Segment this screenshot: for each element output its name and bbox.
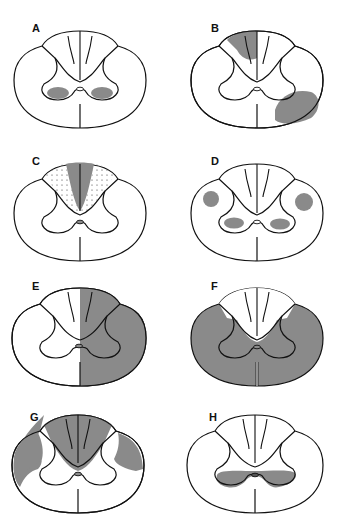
spinal-cord-section	[0, 266, 171, 399]
spinal-cord-section	[0, 399, 171, 532]
panel-f: F	[171, 266, 342, 399]
panel-e: E	[0, 266, 171, 399]
spinal-cord-section	[171, 266, 342, 399]
panel-g: G	[0, 399, 171, 532]
panel-d: D	[171, 133, 342, 266]
spinal-cord-section	[171, 0, 342, 133]
panel-b: B	[171, 0, 342, 133]
spinal-cord-section	[0, 0, 171, 133]
spinal-cord-section	[171, 133, 342, 266]
spinal-cord-section	[0, 133, 171, 266]
spinal-cord-section	[171, 399, 342, 532]
panel-a: A	[0, 0, 171, 133]
panel-c: C	[0, 133, 171, 266]
panel-h: H	[171, 399, 342, 532]
